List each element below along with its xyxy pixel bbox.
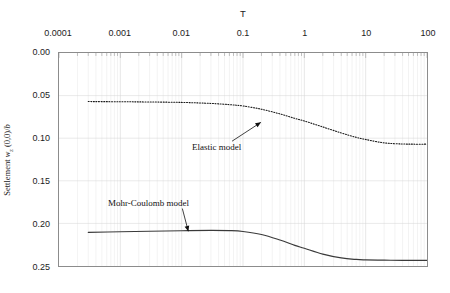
series-line-mohr-coulomb <box>88 230 427 260</box>
x-tick-label: 1 <box>302 28 307 38</box>
x-tick-label: 10 <box>361 28 371 38</box>
y-tick-label: 0.00 <box>32 47 50 57</box>
x-axis-tick-labels: 0.00010.0010.010.1110100 <box>0 28 450 42</box>
series-line-elastic <box>88 102 427 145</box>
chart-figure: T 0.00010.0010.010.1110100 0.000.050.100… <box>0 0 450 293</box>
y-tick-label: 0.05 <box>32 90 50 100</box>
x-tick-label: 0.001 <box>108 28 131 38</box>
annotation-mohr-coulomb-model: Mohr-Coulomb model <box>108 198 189 208</box>
x-tick-label: 100 <box>420 28 435 38</box>
grid-vertical <box>77 53 424 266</box>
x-tick-label: 0.01 <box>173 28 191 38</box>
y-tick-label: 0.20 <box>32 219 50 229</box>
y-tick-label: 0.15 <box>32 176 50 186</box>
y-tick-label: 0.10 <box>32 133 50 143</box>
y-axis-title: Settlement wz (0,0)/b <box>2 124 14 196</box>
annotation-arrow-head <box>255 122 261 127</box>
x-axis-title-label: T <box>240 8 246 19</box>
plot-area <box>58 52 428 267</box>
annotation-elastic-model: Elastic model <box>192 142 241 152</box>
y-tick-label: 0.25 <box>32 262 50 272</box>
x-tick-label: 0.1 <box>237 28 250 38</box>
annotation-arrows <box>182 122 261 231</box>
plot-svg <box>59 53 427 266</box>
x-axis-title: T <box>0 8 450 19</box>
